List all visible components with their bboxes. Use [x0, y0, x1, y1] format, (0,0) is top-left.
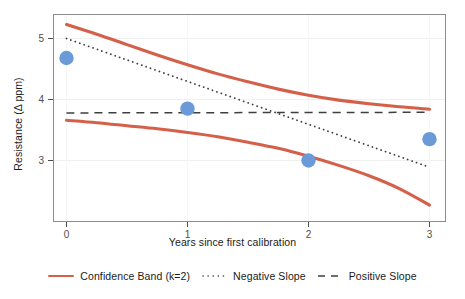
y-tick-label-5: 5 [24, 33, 44, 44]
dashed-line-key-icon [317, 270, 343, 282]
x-axis-title: Years since first calibration [0, 236, 465, 248]
data-point [422, 132, 436, 146]
solid-line-key-icon [48, 270, 74, 282]
legend-item-positive-slope: Positive Slope [317, 270, 417, 282]
legend-item-confidence-band: Confidence Band (k=2) [48, 270, 190, 282]
chart-legend: Confidence Band (k=2) Negative Slope Pos… [0, 270, 465, 282]
legend-label-positive-slope: Positive Slope [349, 270, 417, 282]
legend-label-confidence-band: Confidence Band (k=2) [80, 270, 190, 282]
plot-canvas [0, 0, 465, 299]
data-point [180, 101, 194, 115]
dotted-line-key-icon [201, 270, 227, 282]
y-tick-label-4: 4 [24, 94, 44, 105]
legend-label-negative-slope: Negative Slope [233, 270, 306, 282]
legend-item-negative-slope: Negative Slope [201, 270, 306, 282]
chart-figure: 5 4 3 0 1 2 3 Years since first calibrat… [0, 0, 465, 299]
plot-panel [54, 15, 446, 222]
y-axis-title: Resistance (Δ ppm) [12, 34, 24, 214]
y-tick-label-3: 3 [24, 155, 44, 166]
data-point [301, 153, 315, 167]
data-point [59, 51, 73, 65]
